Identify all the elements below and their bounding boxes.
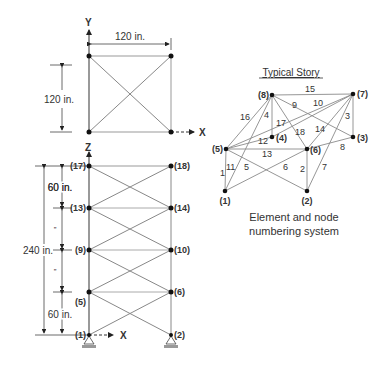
height-dimension: 120 in.	[44, 94, 74, 105]
element-label: 7	[322, 162, 327, 172]
node-label: (3)	[357, 133, 368, 143]
node-label: (7)	[357, 89, 368, 99]
node-label: (2)	[302, 196, 313, 206]
element-label: 14	[315, 124, 325, 134]
element-label: 17	[276, 118, 286, 128]
element-label: 9	[292, 100, 297, 110]
elevation-view: Z X 240 in. 60 in. 60 in. ” ” 60 in.	[23, 142, 190, 348]
node	[169, 54, 174, 59]
node-label: (5)	[75, 297, 86, 307]
ditto-mark: ”	[54, 267, 57, 276]
node-label: (1)	[220, 196, 231, 206]
caption-line-1: Element and node	[249, 211, 338, 223]
typical-story-view: Typical Story	[212, 67, 368, 237]
element-label: 8	[340, 142, 345, 152]
node-label: (10)	[174, 245, 190, 255]
element-label: 16	[240, 112, 250, 122]
element-label: 3	[345, 111, 350, 121]
element-label: 12	[258, 136, 268, 146]
element-label: 18	[295, 127, 305, 137]
element-label: 6	[283, 162, 288, 172]
node-label: (6)	[174, 287, 185, 297]
node-label: (6)	[310, 145, 321, 155]
node-label: (18)	[174, 161, 190, 171]
node-label: (2)	[174, 330, 185, 340]
node-label: (1)	[75, 330, 86, 340]
plan-view: Y X 120 in. 120 in.	[44, 17, 206, 138]
y-axis-label: Y	[85, 17, 92, 28]
x-axis-label: X	[199, 127, 206, 138]
element-label: 2	[300, 164, 305, 174]
width-dimension: 120 in.	[115, 31, 145, 42]
element-label: 10	[313, 98, 323, 108]
element-label: 13	[262, 149, 272, 159]
element-label: 5	[244, 162, 249, 172]
bottom-story-dimension: 60 in.	[48, 309, 72, 320]
node	[169, 130, 174, 135]
node-label: (5)	[212, 144, 223, 154]
node-label: (14)	[174, 203, 190, 213]
typical-story-title: Typical Story	[262, 67, 319, 78]
element-label: 4	[264, 110, 269, 120]
node-label: (13)	[70, 203, 86, 213]
caption-line-2: numbering system	[249, 225, 339, 237]
element-label: 11	[226, 162, 235, 172]
total-height-dimension: 240 in.	[23, 245, 53, 256]
node	[87, 54, 92, 59]
node-label: (4)	[276, 133, 287, 143]
node-label: (17)	[70, 161, 86, 171]
node-label: (8)	[258, 90, 269, 100]
node-label: (9)	[75, 245, 86, 255]
node	[87, 130, 92, 135]
ditto-mark: ”	[54, 225, 57, 234]
z-axis-label: Z	[85, 142, 91, 153]
element-label: 1	[220, 168, 225, 178]
element-label: 15	[305, 84, 315, 94]
top-story-dimension: 60 in.	[48, 182, 72, 193]
structural-diagram: Y X 120 in. 120 in.	[0, 0, 387, 368]
x-axis-label-elevation: X	[120, 330, 127, 341]
